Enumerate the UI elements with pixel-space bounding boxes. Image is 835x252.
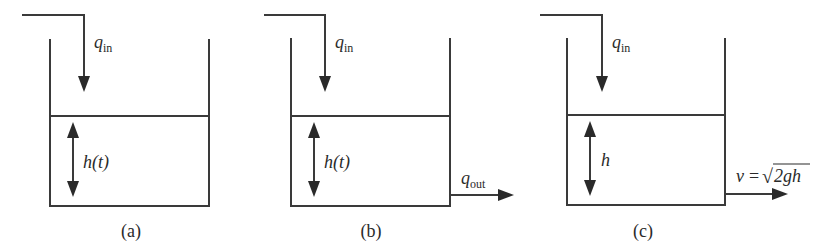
panel-a: qin h(t) (a)	[22, 15, 209, 242]
inflow-arrowhead-icon	[78, 76, 90, 92]
inflow-label: qin	[94, 32, 112, 55]
panel-caption: (c)	[633, 221, 653, 242]
height-label: h(t)	[324, 152, 350, 173]
inflow-pipe	[264, 15, 325, 78]
height-arrow-up-icon	[67, 122, 79, 138]
svg-text:v: v	[736, 166, 744, 186]
inflow-label: qin	[335, 32, 353, 55]
panel-caption: (b)	[361, 221, 382, 242]
height-label: h(t)	[83, 152, 109, 173]
panel-b: qin h(t) qout (b)	[264, 15, 514, 242]
height-arrow-up-icon	[584, 121, 596, 137]
panel-caption: (a)	[121, 221, 141, 242]
inflow-arrowhead-icon	[319, 76, 331, 92]
panel-c: qin h v = √ 2gh (c)	[540, 15, 810, 242]
svg-text:2gh: 2gh	[774, 166, 801, 186]
height-arrow-down-icon	[584, 180, 596, 196]
height-arrow-up-icon	[308, 122, 320, 138]
height-arrow-down-icon	[308, 181, 320, 197]
inflow-label: qin	[612, 32, 630, 55]
inflow-pipe	[22, 15, 84, 78]
inflow-arrowhead-icon	[596, 76, 608, 92]
svg-text:=: =	[749, 166, 759, 186]
tank-diagram-figure: qin h(t) (a) qin h(t) qout (b)	[0, 0, 835, 252]
outflow-arrowhead-icon	[498, 189, 514, 201]
svg-text:√: √	[762, 165, 773, 187]
outflow-arrowhead-icon	[772, 188, 788, 200]
inflow-pipe	[540, 15, 602, 78]
height-arrow-down-icon	[67, 181, 79, 197]
velocity-equation: v = √ 2gh	[736, 164, 810, 187]
outflow-label: qout	[461, 168, 486, 191]
height-label: h	[601, 150, 610, 170]
